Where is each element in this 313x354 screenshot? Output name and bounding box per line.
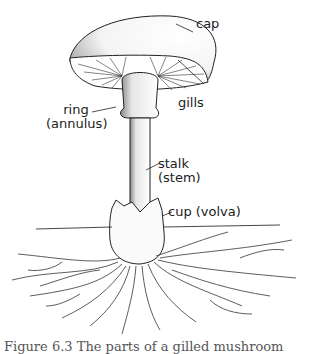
label-stalk-line1: stalk (158, 157, 201, 171)
figure-caption: Figure 6.3 The parts of a gilled mushroo… (4, 339, 283, 354)
label-stalk-line2: (stem) (158, 171, 201, 185)
label-ring-line1: ring (46, 103, 106, 117)
label-cup: cup (volva) (168, 205, 241, 219)
stalk (121, 73, 159, 213)
label-cap: cap (196, 17, 219, 31)
ground-line (36, 227, 112, 229)
label-gills: gills (178, 96, 204, 110)
label-ring-line2: (annulus) (46, 117, 106, 131)
label-ring: ring (annulus) (46, 103, 106, 131)
label-stalk: stalk (stem) (158, 157, 201, 185)
volva (110, 198, 165, 264)
